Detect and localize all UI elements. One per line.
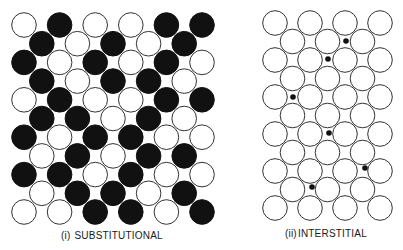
solute-atom — [30, 106, 55, 131]
host-atom — [333, 11, 358, 36]
host-atom — [315, 66, 340, 91]
solute-atom — [83, 50, 108, 75]
host-atom — [83, 13, 108, 38]
host-atom — [154, 125, 179, 150]
host-atom — [350, 103, 375, 128]
caption-text: INTERSTITIAL — [298, 228, 367, 239]
host-atom — [333, 85, 358, 110]
host-atom — [280, 177, 305, 202]
host-atom — [136, 181, 161, 206]
host-atom — [280, 140, 305, 165]
host-atom — [30, 181, 55, 206]
solute-atom — [83, 125, 108, 150]
solute-atom — [30, 31, 55, 56]
host-atom — [47, 125, 72, 150]
interstitial-atom — [325, 56, 331, 62]
solute-atom — [172, 181, 197, 206]
interstitial-atom — [343, 38, 349, 44]
host-atom — [101, 106, 126, 131]
solute-atom — [172, 144, 197, 169]
solute-atom — [154, 88, 179, 113]
host-atom — [315, 103, 340, 128]
solute-atom — [119, 125, 144, 150]
host-atom — [280, 103, 305, 128]
interstitial-lattice — [263, 11, 393, 221]
solute-atom — [83, 200, 108, 225]
host-atom — [12, 200, 37, 225]
solute-atom — [154, 13, 179, 38]
host-atom — [30, 144, 55, 169]
solute-atom — [136, 144, 161, 169]
host-atom — [263, 159, 288, 184]
host-atom — [368, 85, 393, 110]
solute-atom — [190, 88, 215, 113]
host-atom — [263, 196, 288, 221]
host-atom — [12, 88, 37, 113]
host-atom — [154, 162, 179, 187]
host-atom — [350, 66, 375, 91]
caption-interstitial: (ii)INTERSTITIAL — [285, 228, 367, 239]
caption-text: SUBSTITUTIONAL — [74, 230, 162, 241]
host-atom — [263, 122, 288, 147]
host-atom — [350, 177, 375, 202]
host-atom — [333, 196, 358, 221]
host-atom — [298, 159, 323, 184]
host-atom — [136, 31, 161, 56]
solute-atom — [190, 13, 215, 38]
solute-atom — [47, 13, 72, 38]
host-atom — [119, 50, 144, 75]
host-atom — [350, 140, 375, 165]
host-atom — [190, 125, 215, 150]
host-atom — [154, 200, 179, 225]
solute-atom — [172, 31, 197, 56]
host-atom — [190, 162, 215, 187]
host-atom — [280, 29, 305, 54]
host-atom — [315, 140, 340, 165]
solute-atom — [47, 88, 72, 113]
host-atom — [119, 88, 144, 113]
host-atom — [315, 177, 340, 202]
solute-atom — [12, 125, 37, 150]
host-atom — [12, 13, 37, 38]
caption-substitutional: (i)SUBSTITUTIONAL — [61, 230, 163, 241]
host-atom — [333, 48, 358, 73]
host-atom — [298, 122, 323, 147]
host-atom — [47, 50, 72, 75]
interstitial-atom — [326, 130, 332, 136]
host-atom — [119, 13, 144, 38]
host-atom — [263, 85, 288, 110]
host-atom — [298, 48, 323, 73]
solute-atom — [12, 50, 37, 75]
host-atom — [368, 122, 393, 147]
solute-atom — [65, 181, 90, 206]
solute-atom — [65, 144, 90, 169]
host-atom — [172, 69, 197, 94]
host-atom — [368, 159, 393, 184]
solute-atom — [65, 106, 90, 131]
host-atom — [83, 88, 108, 113]
solute-atom — [12, 162, 37, 187]
solute-atom — [47, 162, 72, 187]
solute-atom — [101, 181, 126, 206]
caption-numeral: (ii) — [285, 228, 297, 239]
host-atom — [368, 48, 393, 73]
host-atom — [368, 196, 393, 221]
substitutional-lattice — [12, 13, 215, 225]
solute-atom — [30, 69, 55, 94]
host-atom — [315, 29, 340, 54]
interstitial-atom — [290, 94, 296, 100]
host-atom — [83, 162, 108, 187]
host-atom — [298, 85, 323, 110]
solute-atom — [119, 162, 144, 187]
host-atom — [65, 31, 90, 56]
caption-numeral: (i) — [61, 230, 70, 241]
host-atom — [298, 11, 323, 36]
host-atom — [190, 50, 215, 75]
host-atom — [65, 69, 90, 94]
crystal-defects-diagram — [0, 0, 403, 250]
host-atom — [350, 29, 375, 54]
solute-atom — [136, 106, 161, 131]
host-atom — [47, 200, 72, 225]
host-atom — [101, 144, 126, 169]
host-atom — [298, 196, 323, 221]
